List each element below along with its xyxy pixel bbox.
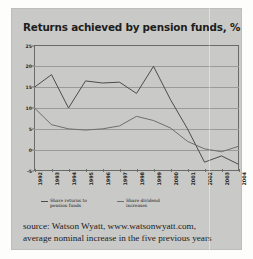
legend-label: Share returns to pension funds: [50, 198, 102, 209]
legend-label: Share dividend increases: [126, 198, 178, 209]
x-tick-label: 1992: [37, 172, 43, 186]
x-tick-label: 1993: [54, 172, 60, 186]
series-line: [35, 108, 239, 152]
x-tick-label: 2003: [224, 172, 230, 186]
x-tick-label: 1996: [105, 172, 111, 186]
x-tick-mark: [69, 169, 70, 172]
legend-swatch-icon: [117, 201, 124, 202]
legend-swatch-icon: [41, 201, 48, 202]
x-tick-mark: [239, 169, 240, 172]
x-tick-mark: [205, 169, 206, 172]
x-tick-mark: [154, 169, 155, 172]
x-tick-label: 2001: [190, 172, 196, 186]
x-tick-mark: [35, 169, 36, 172]
scan-seam: [209, 8, 210, 250]
x-tick-label: 1995: [88, 172, 94, 186]
chart-card: Returns achieved by pension funds, % 252…: [11, 8, 242, 250]
x-tick-mark: [188, 169, 189, 172]
x-tick-mark: [103, 169, 104, 172]
source-note: source: Watson Wyatt, www.watsonwyatt.co…: [23, 221, 238, 244]
legend-item: Share returns to pension funds: [41, 198, 102, 209]
x-tick-mark: [86, 169, 87, 172]
x-tick-label: 1994: [71, 172, 77, 186]
chart-title: Returns achieved by pension funds, %: [23, 21, 235, 33]
x-tick-mark: [171, 169, 172, 172]
chart-legend: Share returns to pension fundsShare divi…: [41, 198, 221, 214]
x-tick-label: 1998: [139, 172, 145, 186]
source-line-1: source: Watson Wyatt, www.watsonwyatt.co…: [23, 221, 238, 233]
x-tick-label: 1999: [156, 172, 162, 186]
x-tick-label: 1997: [122, 172, 128, 186]
x-tick-mark: [52, 169, 53, 172]
x-tick-mark: [137, 169, 138, 172]
x-tick-label: 2004: [241, 172, 247, 186]
source-line-2: average nominal increase in the five pre…: [23, 233, 238, 245]
legend-item: Share dividend increases: [117, 198, 178, 209]
x-tick-label: 2000: [173, 172, 179, 186]
x-tick-mark: [222, 169, 223, 172]
x-tick-mark: [120, 169, 121, 172]
